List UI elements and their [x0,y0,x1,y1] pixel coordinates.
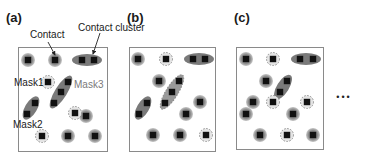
contact [267,53,280,66]
contact [239,107,253,121]
contact-square-icon [169,89,175,95]
contact-cluster [131,94,154,123]
contact [259,74,273,88]
contact-square-icon [203,132,209,138]
contact [281,129,294,142]
contact-square-icon [65,79,71,85]
annotation-mask2: Mask2 [13,119,43,130]
contact-cluster [19,94,42,123]
contact-square-icon [183,111,189,117]
contact-square-icon [79,57,85,63]
contact-square-icon [310,56,316,62]
contact [301,96,314,109]
contact [267,96,280,109]
contact-square-icon [156,78,162,84]
mask-diagram: (a)ContactContact clusterMask1Mask3Mask2… [0,0,366,158]
contact-square-icon [52,57,58,63]
contact [200,129,213,142]
contact [160,53,173,66]
contact-cluster [72,54,102,66]
contact-square-icon [51,100,57,106]
contact [239,52,253,66]
contact [306,128,320,142]
contact-square-icon [270,99,276,105]
contact-square-icon [58,89,64,95]
contact [48,53,62,67]
contact [21,53,35,67]
panel-c: (c) [234,10,324,150]
contact-square-icon [24,111,30,117]
contact-square-icon [83,113,89,119]
contact-square-icon [72,110,78,116]
contact-square-icon [92,133,98,139]
contact-square-icon [290,111,296,117]
contact-square-icon [150,132,156,138]
panels-group: (a)ContactContact clusterMask1Mask3Mask2… [6,10,324,152]
contact-square-icon [257,132,263,138]
contact-square-icon [162,100,168,106]
contact-square-icon [144,100,150,106]
contact-square-icon [243,111,249,117]
contact-square-icon [297,56,303,62]
contact-square-icon [135,56,141,62]
ellipsis-more-icon: ••• [336,92,351,102]
contact-square-icon [177,132,183,138]
contact-square-icon [190,56,196,62]
contact-square-icon [32,100,38,106]
contact-square-icon [243,56,249,62]
contact [173,128,187,142]
contact-square-icon [136,111,142,117]
cluster-mask [19,94,42,123]
contact-square-icon [176,78,182,84]
contact [61,129,75,143]
cluster-mask [72,54,102,66]
contact-cluster [184,53,214,65]
contact-square-icon [45,79,51,85]
contact [131,52,145,66]
panel-a: (a)ContactContact clusterMask1Mask3Mask2 [6,10,145,152]
contact-square-icon [310,132,316,138]
contact-cluster [291,53,321,65]
contact-square-icon [284,78,290,84]
contact [253,128,267,142]
contact [88,129,102,143]
contact-square-icon [284,132,290,138]
contact [179,107,193,121]
contact [246,95,260,109]
contact [152,74,166,88]
panel-label: (c) [234,10,250,25]
contact-square-icon [163,56,169,62]
cluster-mask [184,53,214,65]
panel-label: (a) [6,10,22,25]
contact-square-icon [250,99,256,105]
contact [286,107,300,121]
contact-square-icon [91,57,97,63]
callout-arrow-icon [93,33,100,54]
contact-square-icon [39,133,45,139]
annotation-mask1: Mask1 [14,77,44,88]
contact [36,130,49,143]
contact-square-icon [202,56,208,62]
contact-square-icon [277,89,283,95]
contact-square-icon [25,57,31,63]
contact [146,128,160,142]
panel-label: (b) [127,10,144,25]
contact-square-icon [263,78,269,84]
callout-arrow-icon [48,42,55,55]
contact-square-icon [270,56,276,62]
cluster-mask [131,94,154,123]
contact [69,107,82,120]
contact-square-icon [304,99,310,105]
contact [193,95,207,109]
cluster-mask [291,53,321,65]
annotation-contact: Contact [30,29,65,40]
annotation-mask3: Mask3 [74,79,104,90]
contact-square-icon [65,133,71,139]
contact-square-icon [197,99,203,105]
